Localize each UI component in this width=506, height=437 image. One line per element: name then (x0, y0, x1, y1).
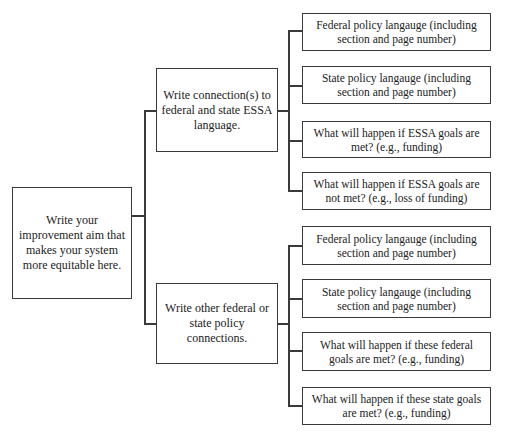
connector-main-trunk (144, 110, 146, 324)
connector-root (131, 215, 145, 217)
connector-leaf-1-4 (288, 190, 303, 192)
branch-essa-box: Write connection(s) to federal and state… (156, 68, 278, 152)
leaf-federal-goals-met: What will happen if these federal goals … (302, 332, 491, 371)
leaf-essa-goals-not-met: What will happen if ESSA goals are not m… (302, 172, 491, 210)
leaf-essa-federal-language: Federal policy langauge (including secti… (302, 13, 491, 51)
connector-leaf-2-2 (288, 298, 303, 300)
connector-leaf-2-3 (288, 350, 303, 352)
root-aim-text: Write your improvement aim that makes yo… (17, 213, 127, 273)
leaf-essa-goals-met: What will happen if ESSA goals are met? … (302, 121, 491, 158)
leaf-essa-state-language: State policy langauge (including section… (302, 66, 491, 104)
branch-other-policy-box: Write other federal or state policy conn… (156, 283, 278, 364)
leaf-text: What will happen if ESSA goals are not m… (307, 177, 486, 205)
leaf-text: What will happen if ESSA goals are met? … (307, 126, 486, 154)
connector-leaf-2-1 (288, 245, 303, 247)
branch-other-policy-text: Write other federal or state policy conn… (161, 301, 273, 346)
connector-trunk-branch-2 (288, 245, 290, 406)
leaf-text: State policy langauge (including section… (307, 71, 486, 99)
connector-leaf-1-3 (288, 140, 303, 142)
connector-trunk-branch-1 (288, 30, 290, 191)
leaf-text: Federal policy langauge (including secti… (307, 232, 486, 260)
connector-leaf-2-4 (288, 405, 303, 407)
leaf-other-state-language: State policy langauge (including section… (302, 279, 491, 318)
branch-essa-text: Write connection(s) to federal and state… (161, 88, 273, 133)
leaf-other-federal-language: Federal policy langauge (including secti… (302, 226, 491, 265)
leaf-text: What will happen if these state goals ar… (307, 392, 486, 420)
leaf-text: Federal policy langauge (including secti… (307, 18, 486, 46)
connector-leaf-1-2 (288, 85, 303, 87)
leaf-state-goals-met: What will happen if these state goals ar… (302, 387, 491, 425)
leaf-text: State policy langauge (including section… (307, 285, 486, 313)
connector-leaf-1-1 (288, 30, 303, 32)
root-aim-box: Write your improvement aim that makes yo… (12, 187, 132, 299)
leaf-text: What will happen if these federal goals … (307, 338, 486, 366)
